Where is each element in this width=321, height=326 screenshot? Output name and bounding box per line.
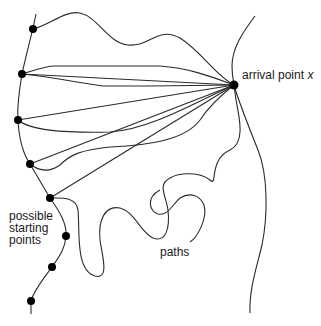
paths-label: paths: [160, 246, 189, 258]
start-point-dot-6: [62, 232, 70, 240]
start-point-dot-2: [18, 70, 26, 78]
arrival-label-text: arrival point: [242, 68, 307, 82]
start-point-dot-3: [14, 116, 22, 124]
path-3b: [18, 85, 234, 132]
path-5c: [150, 190, 205, 242]
starting-boundary-curve: [18, 14, 66, 314]
path-3a: [18, 85, 234, 120]
start-point-dot-1: [29, 25, 37, 33]
path-5a: [50, 85, 234, 198]
start-point-dot-4: [26, 160, 34, 168]
starting-points-label: possible starting points: [9, 210, 53, 246]
arrival-variable: x: [307, 68, 313, 82]
start-point-dot-8: [27, 297, 35, 305]
path-4b: [30, 85, 234, 170]
arrival-point-dot: [230, 81, 239, 90]
path-4a: [30, 85, 234, 164]
arrival-boundary-curve: [232, 16, 266, 313]
starting-label-line-3: points: [9, 234, 53, 246]
start-point-dot-5: [46, 194, 54, 202]
start-point-dot-7: [48, 263, 56, 271]
arrival-point-label: arrival point x: [242, 69, 313, 81]
paths-diagram: [0, 0, 321, 326]
path-2b: [22, 74, 234, 85]
